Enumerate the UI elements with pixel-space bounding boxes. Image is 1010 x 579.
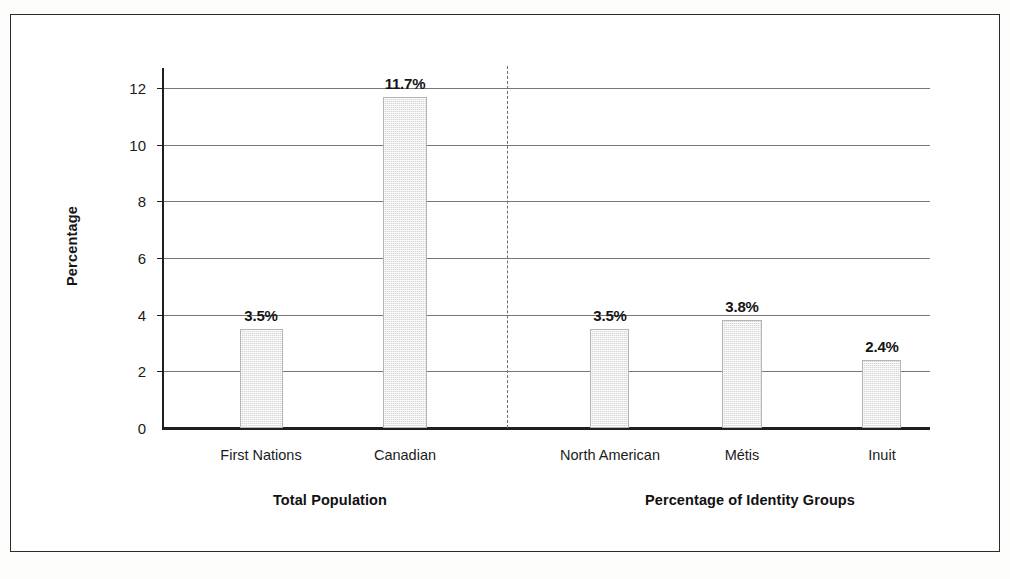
category-label-north-american: North American (540, 447, 680, 463)
category-label-canadian: Canadian (345, 447, 465, 463)
y-axis-line (162, 68, 164, 429)
category-label-metis: Métis (682, 447, 802, 463)
figure-root: Percentage 12 10 8 6 4 2 0 3.5% (0, 0, 1010, 579)
group-divider-line (507, 66, 508, 428)
gridline-12 (163, 88, 930, 89)
bar-canadian[interactable] (383, 97, 427, 428)
y-axis-title: Percentage (64, 166, 80, 326)
bar-metis[interactable] (722, 320, 762, 428)
gridline-6 (163, 258, 930, 259)
bar-value-inuit: 2.4% (842, 338, 922, 355)
category-label-inuit: Inuit (822, 447, 942, 463)
y-tick-label-6: 6 (106, 251, 146, 266)
bar-chart: Percentage 12 10 8 6 4 2 0 3.5% (0, 0, 1010, 579)
bar-value-metis: 3.8% (702, 298, 782, 315)
y-tick-label-8: 8 (106, 194, 146, 209)
y-tick-label-10: 10 (106, 138, 146, 153)
bar-value-north-american: 3.5% (570, 307, 650, 324)
group-caption-total-population: Total Population (210, 492, 450, 508)
y-tick-label-12: 12 (106, 81, 146, 96)
bar-value-first-nations: 3.5% (221, 307, 301, 324)
bar-value-canadian: 11.7% (365, 75, 445, 92)
group-caption-identity-groups: Percentage of Identity Groups (600, 492, 900, 508)
y-tick-label-4: 4 (106, 308, 146, 323)
bar-inuit[interactable] (862, 360, 901, 428)
gridline-8 (163, 201, 930, 202)
bar-first-nations[interactable] (240, 329, 283, 428)
y-tick-label-2: 2 (106, 364, 146, 379)
gridline-10 (163, 145, 930, 146)
bar-north-american[interactable] (590, 329, 629, 428)
category-label-first-nations: First Nations (201, 447, 321, 463)
y-tick-label-0: 0 (106, 421, 146, 436)
